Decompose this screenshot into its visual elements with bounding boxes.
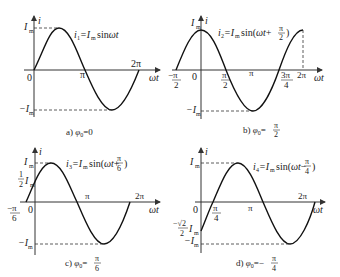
svg-text:m: m [28, 244, 33, 250]
tick-neg-pi-6: −π 6 [7, 203, 20, 223]
panel-a: i I m −I m 0 π 2π ωt i 1 =I m sinωt a) φ… [19, 15, 160, 138]
svg-text:2π: 2π [135, 191, 145, 201]
tick-neg-pi-2: −π 2 [168, 70, 181, 90]
svg-text:4: 4 [284, 80, 289, 90]
svg-text:4: 4 [272, 264, 276, 273]
svg-text:π: π [85, 191, 90, 201]
x-axis-label: ωt [149, 72, 159, 83]
half-im-label: 1 2 I m [18, 170, 35, 189]
sine-curve-c [26, 163, 130, 244]
svg-text:): ) [286, 27, 289, 39]
svg-text:m: m [29, 163, 34, 169]
svg-text:m: m [29, 110, 34, 116]
svg-text:m: m [196, 24, 201, 30]
tick-pi-2: π 2 [221, 70, 230, 90]
panel-c: i I m 1 2 I m −I m 0 −π 6 π 2π ωt i 3 =I… [7, 146, 160, 273]
sine-curve-a [34, 28, 139, 110]
svg-text:3π: 3π [281, 70, 291, 80]
svg-text:−π: −π [7, 203, 17, 213]
svg-text:m: m [235, 33, 240, 39]
svg-text:0: 0 [193, 204, 198, 215]
y-axis-label: i [38, 15, 41, 26]
tick-pi-4: π 4 [212, 203, 221, 223]
svg-text:I: I [23, 156, 28, 167]
svg-text:I: I [24, 175, 29, 186]
svg-text:2π: 2π [297, 70, 307, 80]
svg-text:=I: =I [72, 158, 83, 169]
im-label: I [23, 21, 28, 32]
two-pi-label: 2π [131, 58, 141, 69]
svg-text:π: π [95, 254, 99, 263]
svg-text:4: 4 [214, 213, 219, 223]
svg-text:sin(ωt−: sin(ωt− [276, 161, 307, 173]
svg-text:i: i [205, 146, 208, 157]
svg-text:I: I [189, 156, 194, 167]
svg-text:ωt: ωt [314, 72, 324, 83]
formula-a: i 1 =I m sinωt [74, 29, 119, 41]
svg-text:m: m [194, 230, 199, 236]
formula-d: i 4 =I m sin(ωt− π 4 ) [253, 157, 315, 176]
svg-text:2: 2 [19, 180, 23, 189]
caption-a: a) φ0=0 [66, 127, 93, 138]
svg-text:=I: =I [259, 161, 270, 172]
svg-text:m: m [30, 182, 35, 188]
svg-text:π: π [279, 24, 283, 33]
svg-text:ωt: ωt [313, 204, 323, 215]
pi-label: π [80, 69, 85, 80]
svg-text:): ) [312, 161, 315, 173]
svg-text:sinωt: sinωt [97, 29, 119, 40]
svg-text:2π: 2π [298, 191, 308, 201]
panel-d: i I m −√2 2 I m −I m 0 π 4 π 2π ωt i 4 =… [173, 146, 325, 273]
caption-b: b) φ0= [243, 125, 266, 136]
svg-text:6: 6 [12, 213, 17, 223]
svg-text:i: i [205, 15, 208, 26]
svg-text:=I: =I [224, 27, 235, 38]
svg-text:ωt: ωt [149, 204, 159, 215]
tick-3pi-4: 3π 4 [281, 70, 293, 90]
svg-text:6: 6 [95, 264, 99, 273]
svg-text:sin(ωt+: sin(ωt+ [241, 27, 272, 39]
svg-text:i: i [39, 146, 42, 157]
panel-b: i I m −I m 0 −π 2 π 2 π 3π 4 2π ωt i 2 =… [168, 15, 324, 139]
svg-text:1: 1 [19, 170, 23, 179]
svg-text:m: m [194, 242, 199, 248]
svg-text:2: 2 [174, 80, 179, 90]
svg-text:0: 0 [28, 204, 33, 215]
formula-c: i 3 =I m sin(ωt+ π 6 ) [66, 154, 127, 173]
svg-text:π: π [117, 154, 121, 163]
sine-curve-d [201, 163, 315, 244]
svg-text:m: m [91, 35, 96, 41]
formula-b: i 2 =I m sin(ωt+ π 2 ) [218, 24, 289, 42]
svg-text:=I: =I [80, 29, 91, 40]
origin-label: 0 [27, 72, 32, 83]
svg-text:π: π [222, 70, 227, 80]
svg-text:2: 2 [279, 33, 283, 42]
svg-text:sin(ωt+: sin(ωt+ [89, 158, 120, 170]
svg-text:π: π [305, 157, 309, 166]
svg-text:m: m [83, 164, 88, 170]
svg-text:π: π [249, 68, 254, 78]
svg-text:I: I [190, 17, 195, 28]
svg-text:m: m [195, 163, 200, 169]
svg-text:6: 6 [117, 164, 121, 173]
caption-d: d) φ0=− [236, 258, 264, 269]
svg-text:−√2: −√2 [173, 219, 186, 228]
caption-c: c) φ0= [65, 258, 87, 269]
svg-text:π: π [274, 121, 278, 130]
svg-text:2: 2 [274, 130, 278, 139]
svg-text:π: π [213, 203, 218, 213]
svg-text:m: m [29, 28, 34, 34]
svg-text:4: 4 [305, 167, 309, 176]
phase-diagrams: i I m −I m 0 π 2π ωt i 1 =I m sinωt a) φ… [0, 0, 340, 277]
svg-text:−π: −π [168, 70, 178, 80]
svg-text:): ) [124, 158, 127, 170]
svg-text:π: π [272, 254, 276, 263]
svg-text:2: 2 [223, 80, 228, 90]
svg-text:I: I [188, 223, 193, 234]
svg-text:m: m [196, 111, 201, 117]
svg-text:m: m [270, 167, 275, 173]
svg-text:π: π [248, 203, 253, 213]
svg-text:0: 0 [192, 71, 197, 82]
